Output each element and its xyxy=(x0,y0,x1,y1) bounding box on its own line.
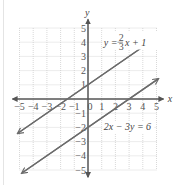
x-tick-label: 0 xyxy=(88,101,93,112)
y-tick-label: −4 xyxy=(75,150,86,161)
x-tick-label: 4 xyxy=(140,101,145,112)
y-tick-label: −5 xyxy=(75,165,86,176)
svg-text:y =: y = xyxy=(103,37,118,48)
y-tick-label: 4 xyxy=(81,37,86,48)
x-tick-label: 3 xyxy=(127,101,132,112)
x-tick-label: −5 xyxy=(14,101,25,112)
x-tick-label: −4 xyxy=(28,101,39,112)
y-tick-label: 2 xyxy=(81,65,86,76)
svg-text:x + 1: x + 1 xyxy=(124,37,146,48)
line-1-label: y = 23x + 1 xyxy=(102,32,160,52)
x-tick-label: 1 xyxy=(99,101,104,112)
y-tick-label: 3 xyxy=(81,51,86,62)
svg-text:2x − 3y = 6: 2x − 3y = 6 xyxy=(104,121,151,132)
y-tick-label: −3 xyxy=(75,136,86,147)
y-tick-label: −2 xyxy=(75,122,86,133)
coordinate-plane: xy −5−4−3−2−1012345−5−4−3−2−112345 y = 2… xyxy=(0,0,173,185)
y-tick-label: 5 xyxy=(81,23,86,34)
svg-text:3: 3 xyxy=(119,41,124,52)
line-labels: y = 23x + 12x − 3y = 6 xyxy=(102,32,160,133)
line-2-label: 2x − 3y = 6 xyxy=(102,121,154,133)
x-tick-label: 5 xyxy=(154,101,159,112)
y-tick-label: −1 xyxy=(75,108,86,119)
y-axis-label: y xyxy=(84,7,90,18)
x-axis-label: x xyxy=(167,93,173,104)
